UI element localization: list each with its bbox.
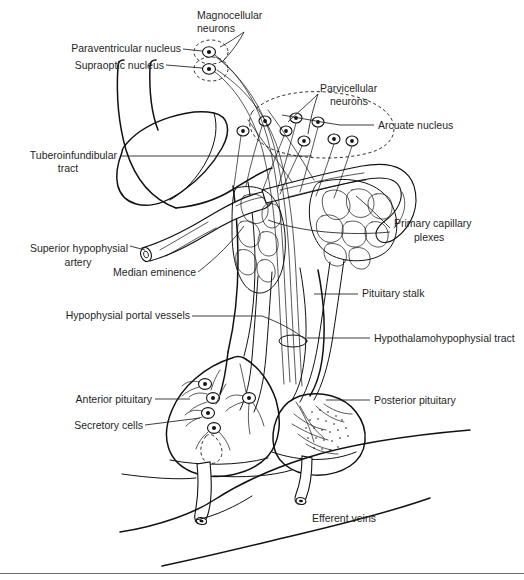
label-secretory-cells: Secretory cells [74,419,143,431]
paraventricular-neuron-cell [203,47,216,57]
hypothalamohypophysial-tract-marker [279,335,307,347]
label-tuberoinfundibular-tract-line1: Tuberoinfundibular [30,149,118,161]
optic-chiasm [117,112,228,205]
posterior-pituitary [272,394,365,475]
efferent-veins [120,430,470,566]
leader-magnocellular [220,32,244,47]
label-hypophysial-portal-vessels: Hypophysial portal vessels [66,309,190,321]
neurohypophysial-axon-terminals [292,402,352,454]
magnocellular-neuron-cells [203,47,216,74]
label-parvicellular-neurons-line1: Parvicellular [320,82,378,94]
label-tuberoinfundibular-tract-line2: tract [58,162,79,174]
hypophysial-portal-vessels [240,260,344,412]
label-pituitary-stalk: Pituitary stalk [362,287,425,299]
primary-capillary-plexus-right [309,179,396,269]
label-paraventricular-nucleus: Paraventricular nucleus [71,42,181,54]
label-parvicellular-neurons-line2: neurons [330,95,368,107]
supraoptic-neuron-cell [203,64,216,74]
label-primary-capillary-plexes-line2: plexes [414,231,444,243]
label-primary-capillary-plexes-line1: Primary capillary [394,217,472,229]
anterior-pituitary [166,357,279,477]
label-superior-hypophysial-artery-line1: Superior hypophysial [30,242,128,254]
leader-supraoptic [166,65,202,68]
leader-magnocellular-2 [222,32,244,62]
label-anterior-pituitary: Anterior pituitary [76,393,153,405]
label-efferent-veins: Efferent veins [312,512,376,524]
label-superior-hypophysial-artery-line2: artery [65,256,93,268]
leader-paraventricular [183,49,202,51]
hypothalamus-outline [117,60,176,208]
label-supraoptic-nucleus: Supraoptic nucleus [75,59,164,71]
label-hypothalamohypophysial-tract: Hypothalamohypophysial tract [374,332,515,344]
neurosecretory-granules [305,409,349,451]
label-magnocellular-neurons-line2: neurons [197,22,235,34]
label-arcuate-nucleus: Arcuate nucleus [378,119,453,131]
anatomical-figure: Magnocellular neurons Paraventricular nu… [0,0,524,580]
label-median-eminence: Median eminence [113,266,196,278]
label-posterior-pituitary: Posterior pituitary [374,394,456,406]
leader-parvicellular-2 [308,94,318,134]
label-magnocellular-neurons-line1: Magnocellular [197,9,263,21]
label-texts: Magnocellular neurons Paraventricular nu… [30,9,515,524]
